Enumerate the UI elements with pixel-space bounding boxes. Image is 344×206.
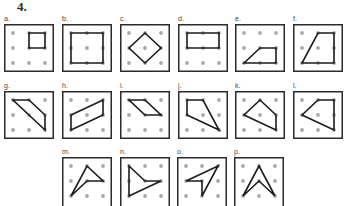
- problem-number: 4.: [17, 0, 27, 14]
- geoboard-figure: [62, 157, 112, 206]
- geoboard-figure: [235, 24, 285, 72]
- figure-label: p.: [234, 148, 240, 156]
- figure-label: k.: [235, 82, 240, 90]
- figure-d: d.: [178, 24, 228, 72]
- figure-f: f.: [293, 24, 343, 72]
- geoboard-figure: [178, 91, 228, 139]
- figure-b: b.: [62, 24, 112, 72]
- figure-label: j.: [178, 82, 182, 90]
- figure-label: e.: [235, 15, 241, 23]
- polygon-shape: [71, 166, 103, 196]
- figure-label: l.: [293, 82, 297, 90]
- geoboard-figure: [178, 24, 228, 72]
- figure-m: m.: [62, 157, 112, 205]
- figure-e: e.: [235, 24, 285, 72]
- polygon-shape: [129, 100, 161, 115]
- figure-l: l.: [293, 91, 343, 139]
- geoboard-figure: [293, 24, 343, 72]
- geoboard-figure: [62, 91, 112, 139]
- geoboard-figure: [234, 157, 284, 206]
- geoboard-figure: [62, 24, 112, 72]
- figure-h: h.: [62, 91, 112, 139]
- figure-label: m.: [62, 148, 70, 156]
- figure-label: a.: [4, 15, 10, 23]
- figure-a: a.: [4, 24, 54, 72]
- polygon-shape: [13, 100, 45, 130]
- geoboard-figure: [120, 91, 170, 139]
- figure-o: o.: [177, 157, 227, 205]
- figure-label: n.: [120, 148, 126, 156]
- geoboard-figure: [4, 91, 54, 139]
- polygon-shape: [29, 33, 45, 48]
- figure-label: h.: [62, 82, 68, 90]
- figure-p: p.: [234, 157, 284, 205]
- figure-j: j.: [178, 91, 228, 139]
- geoboard-figure: [293, 91, 343, 139]
- figure-n: n.: [120, 157, 170, 205]
- figure-k: k.: [235, 91, 285, 139]
- figure-label: b.: [62, 15, 68, 23]
- geoboard-figure: [120, 157, 170, 206]
- figure-label: d.: [178, 15, 184, 23]
- figure-i: i.: [120, 91, 170, 139]
- polygon-shape: [129, 166, 161, 196]
- polygon-shape: [244, 48, 276, 63]
- polygon-shape: [243, 166, 275, 196]
- figure-c: c.: [120, 24, 170, 72]
- polygon-shape: [186, 166, 218, 196]
- figure-label: c.: [120, 15, 125, 23]
- geoboard-figure: [4, 24, 54, 72]
- geoboard-figure: [177, 157, 227, 206]
- polygon-shape: [187, 33, 219, 48]
- figure-label: g.: [4, 82, 10, 90]
- geoboard-figure: [235, 91, 285, 139]
- figure-label: o.: [177, 148, 183, 156]
- geoboard-figure: [120, 24, 170, 72]
- figure-g: g.: [4, 91, 54, 139]
- figure-label: f.: [293, 15, 297, 23]
- figure-label: i.: [120, 82, 124, 90]
